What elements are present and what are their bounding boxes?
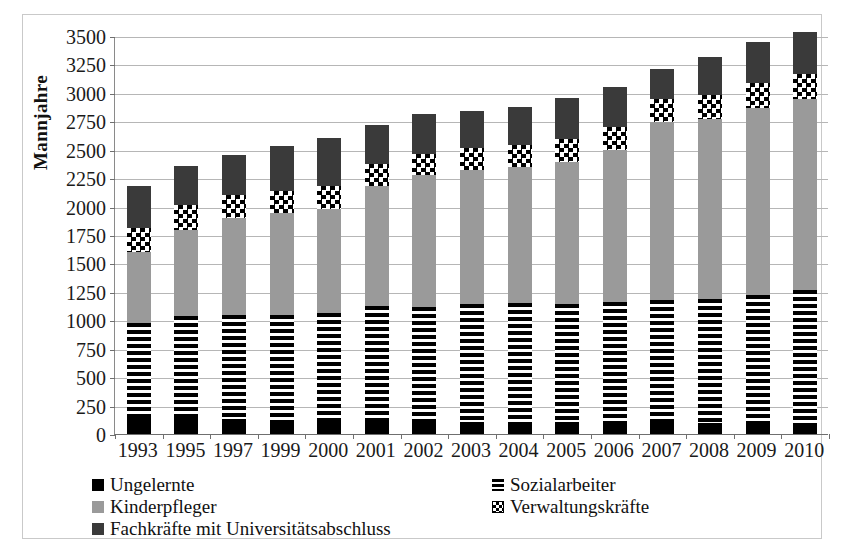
bar-segment[interactable]: [270, 420, 294, 434]
bar-segment[interactable]: [174, 418, 198, 434]
bar-segment[interactable]: [793, 32, 817, 74]
bar-segment[interactable]: [127, 418, 151, 434]
bar-segment[interactable]: [793, 99, 817, 290]
bar-stack[interactable]: [222, 36, 246, 434]
bar-segment[interactable]: [222, 315, 246, 420]
bar-segment[interactable]: [650, 422, 674, 434]
legend-item[interactable]: Ungelernte: [92, 474, 194, 496]
bar-segment[interactable]: [698, 119, 722, 299]
legend-item[interactable]: Kinderpfleger: [92, 496, 217, 518]
bar-segment[interactable]: [746, 423, 770, 434]
bar-segment[interactable]: [412, 154, 436, 175]
bar-segment[interactable]: [222, 195, 246, 218]
bar-segment[interactable]: [270, 146, 294, 191]
bar-segment[interactable]: [746, 42, 770, 84]
bar-stack[interactable]: [555, 36, 579, 434]
bar-stack[interactable]: [365, 36, 389, 434]
x-tick-mark: [305, 434, 306, 439]
bar-segment[interactable]: [222, 218, 246, 315]
bar-segment[interactable]: [127, 252, 151, 323]
bar-segment[interactable]: [746, 295, 770, 423]
bar-segment[interactable]: [603, 127, 627, 150]
bar-stack[interactable]: [746, 36, 770, 434]
bar-segment[interactable]: [317, 138, 341, 186]
bar-segment[interactable]: [365, 164, 389, 186]
bar-segment[interactable]: [365, 125, 389, 164]
bar-segment[interactable]: [508, 107, 532, 145]
bar-segment[interactable]: [365, 186, 389, 307]
bar-segment[interactable]: [650, 99, 674, 122]
bar-segment[interactable]: [650, 122, 674, 301]
bar-segment[interactable]: [603, 87, 627, 127]
bar-segment[interactable]: [460, 422, 484, 435]
bar-stack[interactable]: [270, 36, 294, 434]
bar-stack[interactable]: [460, 36, 484, 434]
bar-segment[interactable]: [412, 114, 436, 153]
bar-segment[interactable]: [412, 422, 436, 435]
bar-segment[interactable]: [270, 213, 294, 314]
legend-label: Verwaltungskräfte: [510, 496, 649, 518]
bar-segment[interactable]: [508, 167, 532, 303]
bar-stack[interactable]: [174, 36, 198, 434]
bar-segment[interactable]: [793, 423, 817, 434]
bar-segment[interactable]: [127, 323, 151, 419]
bar-segment[interactable]: [746, 108, 770, 294]
bar-segment[interactable]: [365, 421, 389, 434]
bar-segment[interactable]: [793, 290, 817, 422]
bar-segment[interactable]: [317, 209, 341, 314]
bar-segment[interactable]: [460, 304, 484, 422]
bar-segment[interactable]: [174, 230, 198, 316]
bar-segment[interactable]: [222, 155, 246, 195]
bar-segment[interactable]: [603, 150, 627, 302]
bar-segment[interactable]: [555, 162, 579, 304]
bar-segment[interactable]: [698, 95, 722, 119]
legend-item[interactable]: Verwaltungskräfte: [492, 496, 649, 518]
x-tick-label: 2007: [641, 439, 681, 462]
bar-segment[interactable]: [793, 74, 817, 99]
bar-segment[interactable]: [412, 307, 436, 422]
bar-segment[interactable]: [508, 422, 532, 434]
bar-segment[interactable]: [174, 316, 198, 417]
bar-segment[interactable]: [127, 228, 151, 252]
bar-stack[interactable]: [603, 36, 627, 434]
bar-segment[interactable]: [555, 139, 579, 161]
bar-stack[interactable]: [412, 36, 436, 434]
bar-segment[interactable]: [460, 170, 484, 304]
bar-segment[interactable]: [317, 420, 341, 434]
bar-segment[interactable]: [650, 300, 674, 422]
bar-segment[interactable]: [460, 111, 484, 149]
bar-segment[interactable]: [127, 186, 151, 228]
y-tick-label: 1500: [36, 254, 106, 274]
bar-segment[interactable]: [698, 423, 722, 434]
legend-item[interactable]: Fachkräfte mit Universitätsabschluss: [92, 518, 391, 540]
bar-segment[interactable]: [460, 148, 484, 170]
bar-stack[interactable]: [793, 36, 817, 434]
legend-item[interactable]: Sozialarbeiter: [492, 474, 616, 496]
bar-segment[interactable]: [698, 299, 722, 423]
bar-segment[interactable]: [698, 57, 722, 95]
bar-segment[interactable]: [222, 419, 246, 434]
bar-segment[interactable]: [650, 69, 674, 99]
bar-segment[interactable]: [555, 422, 579, 434]
bar-segment[interactable]: [603, 302, 627, 422]
bar-segment[interactable]: [603, 422, 627, 434]
bar-segment[interactable]: [174, 205, 198, 229]
y-tick-label: 1250: [36, 283, 106, 303]
bar-stack[interactable]: [698, 36, 722, 434]
bar-segment[interactable]: [270, 315, 294, 421]
bar-segment[interactable]: [174, 166, 198, 206]
bar-stack[interactable]: [650, 36, 674, 434]
bar-segment[interactable]: [508, 145, 532, 167]
bar-segment[interactable]: [555, 304, 579, 422]
bar-segment[interactable]: [412, 175, 436, 307]
bar-segment[interactable]: [508, 303, 532, 422]
bar-stack[interactable]: [508, 36, 532, 434]
bar-segment[interactable]: [365, 306, 389, 421]
bar-segment[interactable]: [746, 83, 770, 108]
bar-stack[interactable]: [127, 36, 151, 434]
bar-segment[interactable]: [317, 313, 341, 420]
bar-segment[interactable]: [317, 186, 341, 209]
bar-segment[interactable]: [555, 98, 579, 140]
bar-segment[interactable]: [270, 191, 294, 213]
bar-stack[interactable]: [317, 36, 341, 434]
